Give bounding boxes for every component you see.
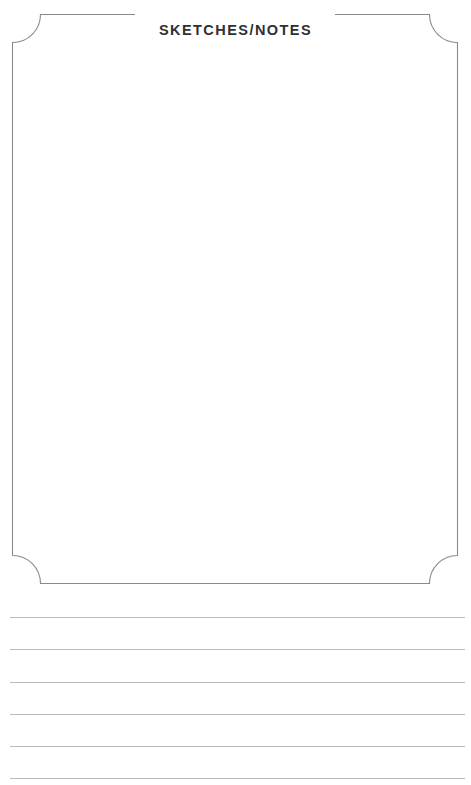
ruled-line[interactable]: [10, 682, 465, 683]
ruled-lines-section: [0, 0, 471, 785]
ruled-line[interactable]: [10, 714, 465, 715]
notebook-page: SKETCHES/NOTES: [0, 0, 471, 785]
ruled-line[interactable]: [10, 746, 465, 747]
ruled-line[interactable]: [10, 778, 465, 779]
ruled-line[interactable]: [10, 649, 465, 650]
ruled-line[interactable]: [10, 617, 465, 618]
